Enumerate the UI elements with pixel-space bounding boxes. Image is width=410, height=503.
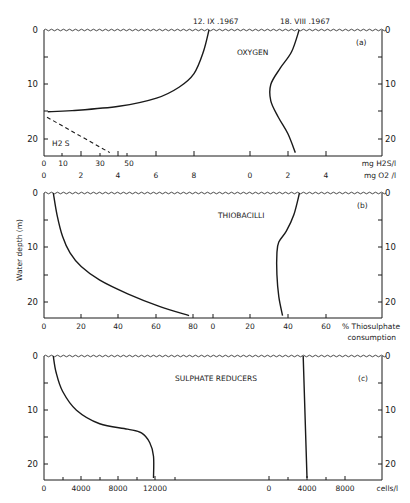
thiobacilli-curve-18-viii [277,193,300,316]
y-tick-c-10: 10 [27,405,38,415]
b-tick-left-20: 20 [76,322,86,331]
thiobacilli-curve-12-ix [53,193,189,316]
b-tick-left-0: 0 [42,322,47,331]
figure-canvas: Water depth (m) 0 10 20 0 10 20 12. IX .… [0,0,410,503]
b-unit-line2: consumption [347,333,396,342]
c-tick-left-4000: 4000 [71,484,90,493]
y-tick-c-0-right: 0 [385,351,390,361]
o2-tick-right-0: 0 [248,171,253,180]
y-tick-c-10-right: 10 [385,405,396,415]
c-tick-left-0: 0 [42,484,47,493]
y-tick-c-20: 20 [27,459,38,469]
y-tick-b-20: 20 [27,297,38,307]
sulphate-reducers-curve-12-ix [53,356,153,478]
panel-b-title: THIOBACILLI [217,211,265,220]
panel-b: 0 10 20 0 10 20 THIOBACILLI (b) 0 20 40 … [27,188,400,342]
y-tick-b-0-right: 0 [385,188,390,198]
y-tick-a-20-right: 20 [385,134,396,144]
oxygen-curve-12-ix [48,30,209,112]
y-tick-b-10: 10 [27,242,38,252]
c-tick-right-8000: 8000 [335,484,354,493]
panel-a: 0 10 20 0 10 20 12. IX .1967 18. VIII .1… [27,17,396,180]
h2s-tick-0: 0 [42,159,47,168]
o2-tick-left-4: 4 [116,171,121,180]
h2s-unit: mg H2S/l [362,159,396,168]
b-tick-left-40: 40 [113,322,123,331]
c-tick-left-8000: 8000 [108,484,127,493]
y-tick-a-10: 10 [27,79,38,89]
y-tick-b-20-right: 20 [385,297,396,307]
y-tick-c-0: 0 [33,351,38,361]
o2-unit: mg O2 /l [364,171,396,180]
panel-a-letter: (a) [356,38,367,47]
water-surface-b [44,192,386,194]
date-label-2: 18. VIII .1967 [280,17,330,26]
h2s-tick-50: 50 [124,159,134,168]
y-tick-a-20: 20 [27,134,38,144]
o2-tick-left-6: 6 [154,171,159,180]
date-label-1: 12. IX .1967 [193,17,239,26]
sulphate-reducers-curve-18-viii [303,356,307,478]
h2s-label: H2 S [52,139,70,148]
b-tick-right-60: 60 [321,322,331,331]
ticks-b [44,220,382,318]
b-tick-right-0: 0 [211,322,216,331]
panel-c-letter: (c) [358,374,368,383]
b-unit-line1: % Thiosulphate [342,322,400,331]
c-tick-left-12000: 12000 [143,484,167,493]
y-tick-a-0-right: 0 [385,25,390,35]
o2-tick-right-4: 4 [324,171,329,180]
panel-c-title: SULPHATE REDUCERS [175,374,257,383]
oxygen-curve-18-viii [270,30,299,153]
y-tick-b-10-right: 10 [385,242,396,252]
y-axis-label: Water depth (m) [15,219,24,281]
b-tick-right-40: 40 [283,322,293,331]
h2s-tick-10: 10 [58,159,68,168]
c-tick-right-4000: 4000 [297,484,316,493]
h2s-tick-30: 30 [95,159,105,168]
ticks-a [44,57,382,156]
o2-tick-left-0: 0 [42,171,47,180]
c-unit: cells/l [377,484,398,493]
panel-a-title: OXYGEN [237,48,268,57]
b-tick-left-80: 80 [188,322,198,331]
water-surface-c [44,355,386,357]
b-tick-right-20: 20 [245,322,255,331]
y-tick-b-0: 0 [33,188,38,198]
c-tick-right-0: 0 [267,484,272,493]
water-surface-a [44,29,386,31]
ticks-c [44,383,382,480]
panel-b-letter: (b) [357,201,368,210]
b-tick-left-60: 60 [151,322,161,331]
o2-tick-left-8: 8 [192,171,197,180]
o2-tick-right-2: 2 [286,171,291,180]
y-tick-a-0: 0 [33,25,38,35]
o2-tick-left-2: 2 [79,171,84,180]
panel-c: 0 10 20 0 10 20 SULPHATE REDUCERS (c) 0 … [27,351,398,493]
y-tick-a-10-right: 10 [385,79,396,89]
y-tick-c-20-right: 20 [385,459,396,469]
